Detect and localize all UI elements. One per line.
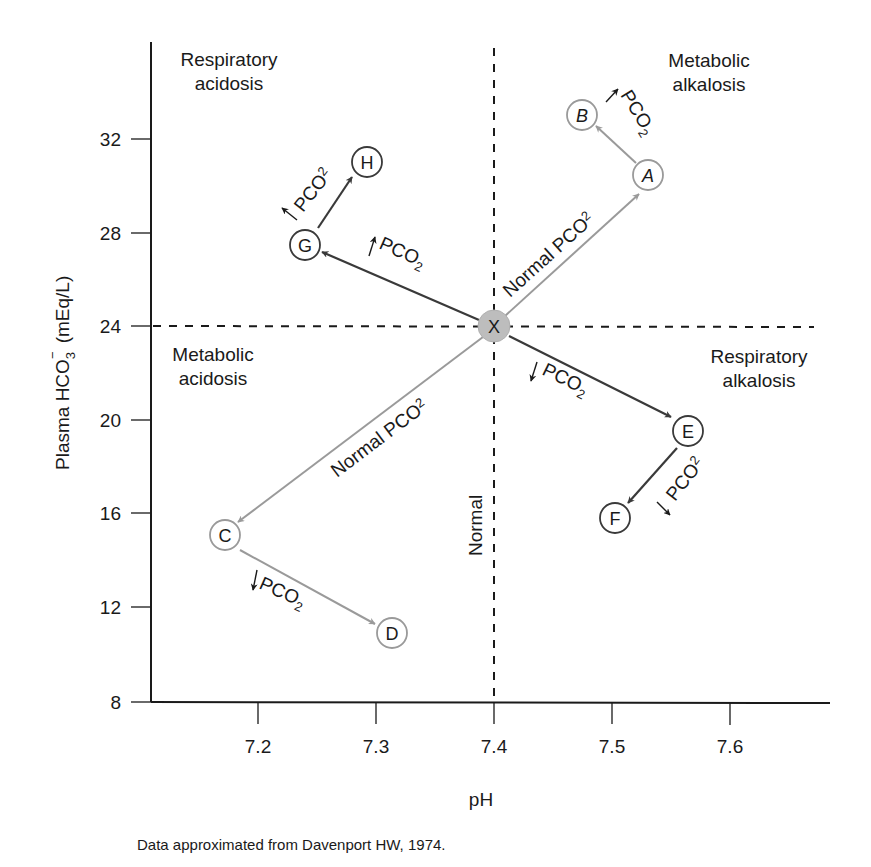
x-axis-line xyxy=(151,702,830,703)
down-arrow-icon xyxy=(657,502,670,515)
region-met-alkalosis-1: Metabolic xyxy=(668,50,749,71)
svg-text:H: H xyxy=(361,153,374,173)
x-tick-label: 7.6 xyxy=(717,736,743,757)
region-met-alkalosis-2: alkalosis xyxy=(673,74,746,95)
point-e: E xyxy=(673,416,703,446)
region-normal: Normal xyxy=(465,495,486,556)
point-f: F xyxy=(600,503,630,533)
arrow-x-to-c xyxy=(238,337,483,522)
acid-base-chart: 32 28 24 20 16 12 8 7.2 7.3 7.4 7.5 7.6 … xyxy=(0,0,871,867)
point-b: B xyxy=(567,100,597,130)
y-axis-title: Plasma HCO3−(mEq/L) xyxy=(45,276,78,470)
nodes: X A B C D E F G xyxy=(210,100,703,648)
axes: 32 28 24 20 16 12 8 7.2 7.3 7.4 7.5 7.6 … xyxy=(45,42,830,810)
svg-text:PCO2: PCO2 xyxy=(537,359,591,403)
region-resp-alkalosis-1: Respiratory xyxy=(710,346,808,367)
svg-text:Plasma HCO3−(mEq/L): Plasma HCO3−(mEq/L) xyxy=(45,276,78,470)
x-axis-title: pH xyxy=(469,789,493,810)
y-tick-label: 24 xyxy=(100,316,122,337)
x-tick-label: 7.4 xyxy=(481,736,508,757)
region-resp-acidosis-1: Respiratory xyxy=(180,49,278,70)
arrow-a-to-b xyxy=(596,126,636,163)
y-tick-label: 32 xyxy=(100,129,121,150)
label-g-to-h: PCO2 xyxy=(289,164,336,216)
down-arrow-icon xyxy=(253,570,257,590)
svg-text:PCO2: PCO2 xyxy=(661,453,708,505)
up-arrow-icon xyxy=(282,208,297,220)
x-tick-labels: 7.2 7.3 7.4 7.5 7.6 xyxy=(245,736,743,757)
svg-text:Normal PCO2: Normal PCO2 xyxy=(498,208,598,301)
svg-text:X: X xyxy=(488,317,500,337)
label-e-to-f: PCO2 xyxy=(661,453,708,505)
point-g: G xyxy=(290,230,320,260)
svg-text:PCO2: PCO2 xyxy=(613,86,660,140)
source-caption: Data approximated from Davenport HW, 197… xyxy=(137,836,445,853)
y-tick-label: 12 xyxy=(100,597,121,618)
y-axis-title-sup: − xyxy=(45,351,60,359)
point-a: A xyxy=(633,160,663,190)
region-resp-alkalosis-2: alkalosis xyxy=(723,370,796,391)
region-labels: Respiratory acidosis Metabolic alkalosis… xyxy=(172,49,808,556)
label-x-to-a: Normal PCO2 xyxy=(498,208,598,301)
y-axis-title-sub: 3 xyxy=(63,352,78,359)
label-x-to-e: PCO2 xyxy=(537,359,591,403)
svg-text:A: A xyxy=(641,166,654,186)
region-met-acidosis-2: acidosis xyxy=(179,368,248,389)
svg-text:PCO2: PCO2 xyxy=(289,164,336,216)
y-tick-label: 20 xyxy=(100,410,121,431)
svg-text:PCO2: PCO2 xyxy=(255,572,309,615)
up-arrow-icon xyxy=(606,89,618,102)
down-arrow-icon xyxy=(531,362,537,381)
x-tick-label: 7.5 xyxy=(599,736,625,757)
label-x-to-g: PCO2 xyxy=(375,232,429,275)
y-axis-title-main: Plasma HCO xyxy=(52,359,73,470)
point-x: X xyxy=(478,310,510,342)
svg-text:F: F xyxy=(610,509,621,529)
x-ticks xyxy=(258,702,730,725)
svg-text:C: C xyxy=(219,526,232,546)
arrow-x-to-a xyxy=(505,194,639,316)
y-tick-label: 8 xyxy=(110,692,121,713)
region-resp-acidosis-2: acidosis xyxy=(195,73,264,94)
y-tick-label: 28 xyxy=(100,223,121,244)
up-arrow-icon xyxy=(369,237,375,256)
y-ticks xyxy=(131,139,151,702)
x-tick-label: 7.2 xyxy=(245,736,271,757)
arrow-x-to-e xyxy=(509,336,671,417)
svg-text:G: G xyxy=(298,236,312,256)
region-met-acidosis-1: Metabolic xyxy=(172,344,253,365)
y-tick-labels: 32 28 24 20 16 12 8 xyxy=(100,129,122,713)
svg-text:D: D xyxy=(386,624,399,644)
y-axis-title-unit: (mEq/L) xyxy=(52,276,73,344)
label-x-to-c: Normal PCO2 xyxy=(326,394,431,481)
y-tick-label: 16 xyxy=(100,503,121,524)
point-d: D xyxy=(377,618,407,648)
svg-text:PCO2: PCO2 xyxy=(375,232,429,275)
x-tick-label: 7.3 xyxy=(363,736,389,757)
point-c: C xyxy=(210,520,240,550)
point-h: H xyxy=(352,147,382,177)
label-c-to-d: PCO2 xyxy=(255,572,309,615)
svg-text:Normal PCO2: Normal PCO2 xyxy=(326,394,431,481)
svg-text:E: E xyxy=(682,422,694,442)
svg-text:B: B xyxy=(576,106,588,126)
label-a-to-b: PCO2 xyxy=(613,86,660,140)
